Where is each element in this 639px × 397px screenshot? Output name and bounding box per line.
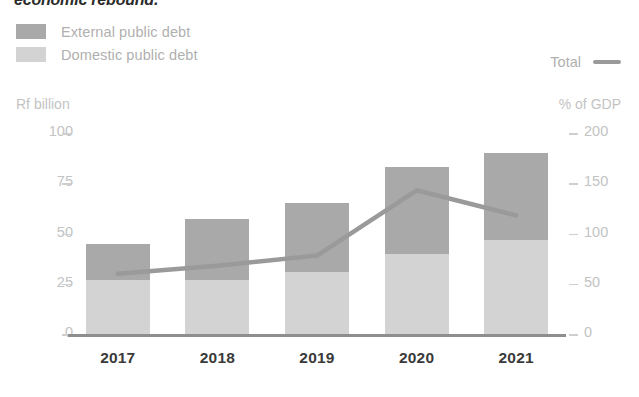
y-axis-right-tick-label: 150: [584, 174, 608, 189]
y-axis-right-tick-mark: [569, 183, 578, 185]
x-axis-tick-label-2017: 2017: [78, 349, 158, 367]
bar-segment-domestic: [86, 280, 150, 334]
y-axis-left-tick-label: 0: [65, 325, 73, 340]
bar-group: [285, 0, 349, 397]
y-axis-right-tick-mark: [569, 334, 578, 336]
y-axis-left-tick-mark: [62, 234, 71, 236]
bar-group: [86, 0, 150, 397]
y-axis-left-tick-mark: [62, 183, 71, 185]
bar-segment-external: [484, 153, 548, 239]
bar-group: [484, 0, 548, 397]
y-axis-left-tick-mark: [62, 284, 71, 286]
bar-segment-external: [285, 203, 349, 271]
bar-group: [185, 0, 249, 397]
bar-group: [385, 0, 449, 397]
bar-segment-external: [385, 167, 449, 253]
y-axis-left-tick-label: 25: [57, 275, 73, 290]
y-axis-right-tick-mark: [569, 133, 578, 135]
y-axis-right-tick-mark: [569, 234, 578, 236]
x-axis-tick-label-2020: 2020: [377, 349, 457, 367]
bar-segment-domestic: [185, 280, 249, 334]
y-axis-left-tick-label: 100: [49, 124, 73, 139]
y-axis-right-tick-label: 50: [584, 275, 600, 290]
y-axis-right-tick-label: 100: [584, 225, 608, 240]
chart-plot-area: 1002007515050100255000 20172018201920202…: [0, 0, 639, 397]
bar-segment-external: [86, 244, 150, 280]
y-axis-right-tick-label: 0: [584, 325, 592, 340]
y-axis-right-tick-label: 200: [584, 124, 608, 139]
bar-segment-domestic: [385, 254, 449, 334]
bar-segment-external: [185, 219, 249, 279]
x-axis-tick-label-2021: 2021: [476, 349, 556, 367]
x-axis-tick-label-2019: 2019: [277, 349, 357, 367]
y-axis-right-tick-mark: [569, 284, 578, 286]
y-axis-left-tick-mark: [62, 133, 71, 135]
bar-segment-domestic: [484, 240, 548, 334]
y-axis-left-tick-label: 75: [57, 174, 73, 189]
x-axis-tick-label-2018: 2018: [177, 349, 257, 367]
bar-segment-domestic: [285, 272, 349, 334]
x-axis-line: [68, 334, 566, 337]
y-axis-left-tick-label: 50: [57, 225, 73, 240]
